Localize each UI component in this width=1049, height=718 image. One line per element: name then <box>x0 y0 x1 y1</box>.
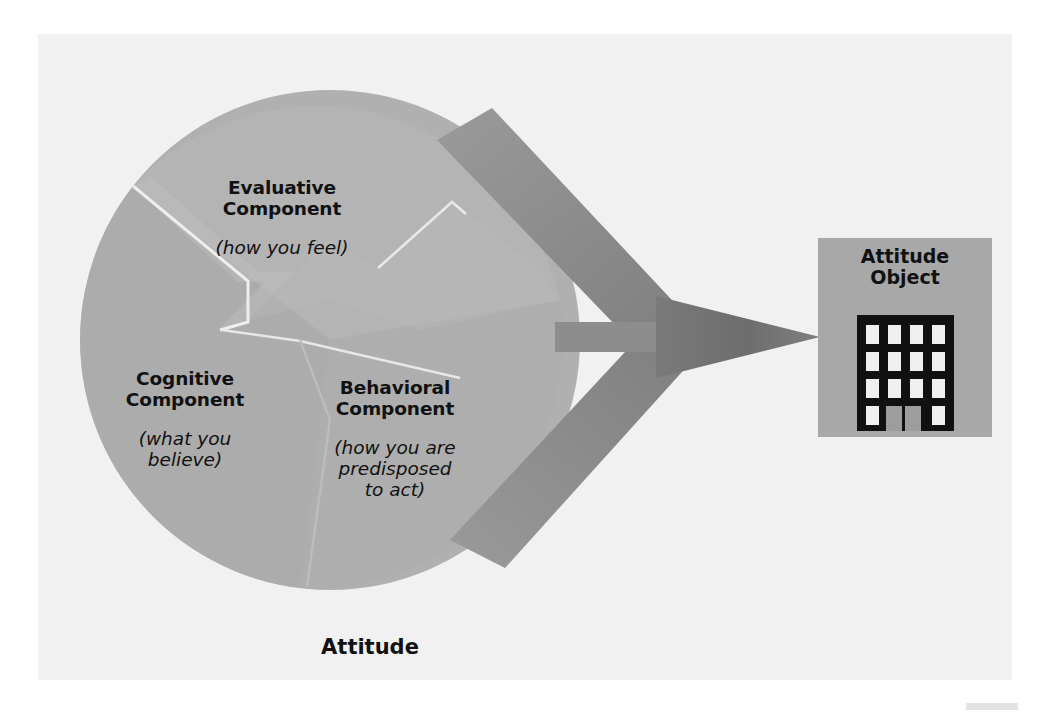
arrow-head-icon <box>656 296 820 378</box>
building-window <box>888 352 901 371</box>
diagram-page: Evaluative Component (how you feel) Cogn… <box>0 0 1049 718</box>
building-window <box>888 325 901 344</box>
building-window <box>932 352 945 371</box>
building-window <box>910 325 923 344</box>
building-window <box>932 406 945 425</box>
office-building-icon <box>857 315 954 431</box>
building-window <box>888 379 901 398</box>
building-window <box>910 352 923 371</box>
building-window <box>932 379 945 398</box>
building-window <box>866 325 879 344</box>
building-window <box>866 379 879 398</box>
building-window <box>932 325 945 344</box>
building-window <box>910 379 923 398</box>
building-window <box>866 406 879 425</box>
building-door-right <box>905 406 921 431</box>
attitude-object-label: Attitude Object <box>818 246 992 289</box>
building-window <box>866 352 879 371</box>
attitude-model-diagram <box>0 0 1049 718</box>
building-door-left <box>886 406 902 431</box>
